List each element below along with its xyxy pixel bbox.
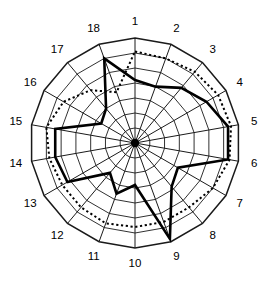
grid-spoke-3 <box>135 63 202 143</box>
grid-spoke-2 <box>135 44 171 143</box>
radar-chart: 123456789101112131415161718 <box>0 0 272 286</box>
axis-label-16: 16 <box>24 76 37 88</box>
axis-label-14: 14 <box>9 157 22 169</box>
axis-label-6: 6 <box>251 157 257 169</box>
axis-label-3: 3 <box>210 43 216 55</box>
center-hub <box>131 139 139 147</box>
grid-spoke-8 <box>135 143 202 223</box>
axis-label-7: 7 <box>237 197 243 209</box>
radar-chart-canvas: 123456789101112131415161718 <box>0 0 272 286</box>
axis-label-1: 1 <box>132 15 138 27</box>
axis-label-2: 2 <box>173 22 179 34</box>
axis-label-15: 15 <box>9 115 22 127</box>
axis-label-12: 12 <box>51 229 64 241</box>
center-point <box>131 139 139 147</box>
axis-label-8: 8 <box>210 229 216 241</box>
axis-label-11: 11 <box>88 250 100 262</box>
axis-label-4: 4 <box>237 76 244 88</box>
axis-label-9: 9 <box>173 250 179 262</box>
axis-label-13: 13 <box>24 197 37 209</box>
axis-label-17: 17 <box>51 43 64 55</box>
axis-label-5: 5 <box>251 115 257 127</box>
axis-label-18: 18 <box>87 22 100 34</box>
grid-spoke-12 <box>68 143 135 223</box>
grid-spoke-17 <box>68 63 135 143</box>
axis-label-10: 10 <box>129 257 142 269</box>
